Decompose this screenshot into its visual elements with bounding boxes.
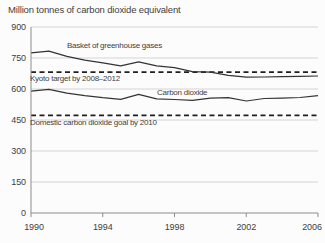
x-tick-label-2006: 2006 bbox=[302, 222, 322, 232]
line-label-kyoto-target-by-2008-2012: Kyoto target by 2008–2012 bbox=[30, 74, 121, 83]
y-tick-label-750: 750 bbox=[11, 53, 26, 63]
y-tick-label-150: 150 bbox=[11, 177, 26, 187]
x-tick-label-1998: 1998 bbox=[165, 222, 185, 232]
x-tick-label-1990: 1990 bbox=[24, 222, 44, 232]
x-tick-label-2002: 2002 bbox=[236, 222, 256, 232]
y-tick-label-300: 300 bbox=[11, 146, 26, 156]
emissions-chart: Million tonnes of carbon dioxide equival… bbox=[0, 0, 325, 243]
y-tick-label-0: 0 bbox=[21, 208, 26, 218]
y-tick-label-900: 900 bbox=[11, 22, 26, 32]
emissions-line-plot: 015030045060075090019901994199820022006B… bbox=[0, 0, 325, 243]
line-label-basket-of-greenhouse-gases: Basket of greenhouse gases bbox=[67, 41, 162, 50]
x-tick-label-1994: 1994 bbox=[93, 222, 113, 232]
y-tick-label-450: 450 bbox=[11, 115, 26, 125]
line-label-domestic-carbon-dioxide-goal-by-2010: Domestic carbon dioxide goal by 2010 bbox=[30, 118, 157, 127]
y-tick-label-600: 600 bbox=[11, 84, 26, 94]
line-label-carbon-dioxide: Carbon dioxide bbox=[157, 88, 208, 97]
